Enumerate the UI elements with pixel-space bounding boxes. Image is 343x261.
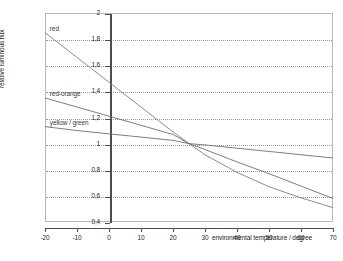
y-tick-label: 0,8 [78,166,100,173]
x-tick [269,228,270,232]
x-tick [333,228,334,232]
x-tick-label: -10 [64,234,90,241]
x-tick [301,228,302,232]
x-tick-label: 60 [288,234,314,241]
x-tick [173,228,174,232]
y-tick-label: 0,6 [78,192,100,199]
x-tick [45,228,46,232]
chart-figure: relative luminous flux environmental tem… [0,0,343,261]
x-tick-label: 20 [160,234,186,241]
x-tick-label: 50 [256,234,282,241]
x-tick-label: -20 [32,234,58,241]
y-tick-label: 0,4 [78,218,100,225]
x-tick [141,228,142,232]
y-tick-label: 1 [78,140,100,147]
figure-caption [36,253,336,261]
series-label-red: red [50,25,59,32]
x-tick [109,228,110,232]
y-tick-label: 1,2 [78,114,100,121]
x-tick-label: 10 [128,234,154,241]
x-tick [205,228,206,232]
y-tick-label: 1,6 [78,61,100,68]
x-tick-label: 40 [224,234,250,241]
x-tick-label: 0 [96,234,122,241]
x-tick-label: 70 [320,234,343,241]
x-tick [77,228,78,232]
y-axis-title: relative luminous flux [0,30,5,89]
category-axis [45,228,333,229]
y-tick-label: 1,4 [78,87,100,94]
x-tick-label: 30 [192,234,218,241]
chart-canvas [0,0,343,261]
series-label-red-orange: red-orange [50,90,81,97]
y-tick-label: 2 [78,9,100,16]
x-tick [237,228,238,232]
y-tick-label: 1,8 [78,35,100,42]
